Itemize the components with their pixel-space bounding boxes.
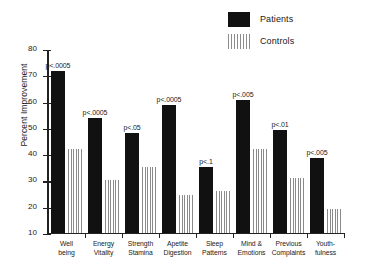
x-axis-label: SleepPatterns: [196, 239, 233, 257]
bar-controls[interactable]: [327, 209, 341, 232]
x-axis-label: Youth-fulness: [307, 239, 344, 257]
bar-group: p<.0005: [48, 50, 85, 233]
p-value-annotation: p<.0005: [157, 96, 182, 103]
legend-item-controls: Controls: [228, 30, 358, 52]
bar-group: p<.05: [122, 50, 159, 233]
bar-group: p<.005: [233, 50, 270, 233]
y-tick-label: 10: [28, 228, 37, 237]
bar-patients[interactable]: p<.1: [199, 167, 213, 232]
x-axis-label: Mind &Emotions: [233, 239, 270, 257]
x-axis-label: ApetiteDigestion: [159, 239, 196, 257]
bar-patients[interactable]: p<.05: [125, 133, 139, 232]
bar-group: p<.01: [270, 50, 307, 233]
x-tick: [159, 233, 160, 238]
legend-swatch-patients-icon: [228, 12, 250, 27]
plot-area: 1020304050607080 p<.0005p<.0005p<.05p<.0…: [47, 50, 344, 234]
x-axis-label-line: Youth-: [307, 239, 344, 248]
y-tick: 10: [43, 234, 51, 235]
x-axis-label: StrengthStamina: [122, 239, 159, 257]
x-axis-label-line: Stamina: [122, 248, 159, 257]
bar-controls[interactable]: [216, 191, 230, 233]
bar-groups: p<.0005p<.0005p<.05p<.0005p<.1p<.005p<.0…: [48, 50, 344, 233]
x-axis-label-line: Energy: [85, 239, 122, 248]
x-axis-label-line: Complaints: [270, 248, 307, 257]
bar-patients[interactable]: p<.01: [273, 130, 287, 233]
legend-item-patients: Patients: [228, 8, 358, 30]
y-tick-label: 30: [28, 175, 37, 184]
bar-patients[interactable]: p<.0005: [51, 71, 65, 233]
x-axis-label-line: Strength: [122, 239, 159, 248]
x-axis-label-line: Emotions: [233, 248, 270, 257]
x-axis-labels: WellbeingEnergyVitalityStrengthStaminaAp…: [48, 239, 344, 257]
y-tick-label: 80: [28, 44, 37, 53]
x-tick: [85, 233, 86, 238]
x-axis-label-line: being: [48, 248, 85, 257]
y-tick-label: 20: [28, 202, 37, 211]
x-axis-label-line: Apetite: [159, 239, 196, 248]
p-value-annotation: p<.05: [123, 124, 140, 131]
x-tick: [122, 233, 123, 238]
y-tick-label: 60: [28, 97, 37, 106]
legend-label-patients: Patients: [260, 14, 293, 24]
bar-controls[interactable]: [142, 167, 156, 232]
x-axis-label-line: Well: [48, 239, 85, 248]
bar-patients[interactable]: p<.0005: [88, 118, 102, 233]
x-tick: [307, 233, 308, 238]
p-value-annotation: p<.005: [306, 149, 327, 156]
bar-chart: Patients Controls Percent Improvement 10…: [0, 0, 365, 274]
x-axis-label-line: Vitality: [85, 248, 122, 257]
bar-group: p<.0005: [159, 50, 196, 233]
bar-patients[interactable]: p<.005: [236, 100, 250, 233]
bar-controls[interactable]: [179, 195, 193, 233]
bar-group: p<.1: [196, 50, 233, 233]
x-axis-label: EnergyVitality: [85, 239, 122, 257]
p-value-annotation: p<.01: [271, 121, 288, 128]
bar-group: p<.0005: [85, 50, 122, 233]
x-axis-label: PreviousComplaints: [270, 239, 307, 257]
x-axis-label-line: Digestion: [159, 248, 196, 257]
x-axis-label-line: Sleep: [196, 239, 233, 248]
x-axis-label: Wellbeing: [48, 239, 85, 257]
chart-legend: Patients Controls: [228, 8, 358, 52]
p-value-annotation: p<.005: [232, 91, 253, 98]
x-axis-label-line: fulness: [307, 248, 344, 257]
x-tick: [196, 233, 197, 238]
y-tick-label: 70: [28, 70, 37, 79]
bar-patients[interactable]: p<.0005: [162, 105, 176, 233]
x-tick: [233, 233, 234, 238]
p-value-annotation: p<.0005: [46, 62, 71, 69]
bar-group: p<.005: [307, 50, 344, 233]
p-value-annotation: p<.1: [199, 158, 212, 165]
x-tick: [344, 233, 345, 238]
x-axis-label-line: Previous: [270, 239, 307, 248]
x-axis-label-line: Patterns: [196, 248, 233, 257]
bar-controls[interactable]: [253, 149, 267, 232]
bar-patients[interactable]: p<.005: [310, 158, 324, 232]
legend-label-controls: Controls: [260, 36, 294, 46]
legend-swatch-controls-icon: [228, 34, 250, 49]
bar-controls[interactable]: [68, 149, 82, 232]
x-tick: [270, 233, 271, 238]
p-value-annotation: p<.0005: [83, 109, 108, 116]
x-axis-label-line: Mind &: [233, 239, 270, 248]
bar-controls[interactable]: [105, 180, 119, 232]
y-tick-label: 50: [28, 123, 37, 132]
bar-controls[interactable]: [290, 178, 304, 233]
y-tick-label: 40: [28, 149, 37, 158]
